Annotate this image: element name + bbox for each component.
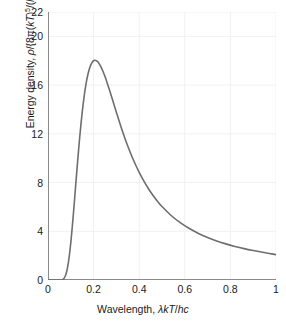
plot-svg — [48, 12, 276, 280]
y-tick-label: 4 — [21, 226, 43, 236]
plot-area — [48, 12, 276, 280]
y-tick-label: 12 — [21, 129, 43, 139]
x-tick-label: 0.4 — [124, 284, 154, 295]
x-tick-label: 0.2 — [79, 284, 109, 295]
planck-distribution-chart: Energy density, ρ/{8π(kT)5/(hc)4} Wavele… — [0, 0, 286, 326]
y-tick-label: 16 — [21, 80, 43, 90]
x-tick-label: 1 — [261, 284, 286, 295]
x-tick-label: 0 — [33, 284, 63, 295]
x-axis-label: Wavelength, λkT/hc — [0, 303, 286, 315]
gridlines — [48, 12, 276, 280]
x-tick-label: 0.8 — [215, 284, 245, 295]
y-tick-label: 20 — [21, 31, 43, 41]
x-tick-label: 0.6 — [170, 284, 200, 295]
y-tick-label: 22 — [21, 7, 43, 17]
y-tick-label: 8 — [21, 178, 43, 188]
planck-curve — [48, 60, 276, 280]
